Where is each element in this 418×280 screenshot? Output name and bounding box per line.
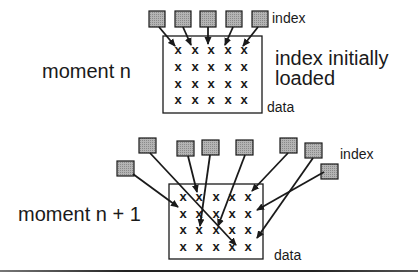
index-box bbox=[280, 138, 297, 153]
bottom-rule bbox=[0, 270, 418, 272]
svg-text:x: x bbox=[212, 206, 220, 221]
svg-text:x: x bbox=[244, 189, 252, 204]
bottom-index-boxes bbox=[117, 138, 338, 179]
bottom-moment-label: moment n + 1 bbox=[18, 204, 141, 224]
svg-text:x: x bbox=[228, 222, 236, 237]
bottom-data-label: data bbox=[274, 248, 301, 262]
svg-text:x: x bbox=[228, 206, 236, 221]
svg-text:x: x bbox=[244, 222, 252, 237]
svg-text:x: x bbox=[207, 92, 215, 107]
svg-text:x: x bbox=[174, 92, 182, 107]
svg-text:x: x bbox=[212, 239, 220, 254]
index-box bbox=[149, 11, 165, 27]
top-note-line1: index initially bbox=[275, 48, 388, 68]
top-diagram: xxxxx xxxxx xxxxx xxxxx bbox=[149, 11, 268, 113]
svg-text:x: x bbox=[224, 92, 232, 107]
top-index-boxes bbox=[149, 11, 268, 27]
svg-text:x: x bbox=[191, 42, 199, 57]
svg-text:x: x bbox=[240, 76, 248, 91]
index-box bbox=[236, 140, 253, 155]
svg-text:x: x bbox=[191, 76, 199, 91]
top-moment-label: moment n bbox=[42, 61, 131, 81]
bottom-index-label: index bbox=[340, 147, 373, 161]
index-box bbox=[226, 11, 242, 27]
svg-text:x: x bbox=[244, 206, 252, 221]
index-box bbox=[117, 161, 134, 176]
svg-text:x: x bbox=[179, 239, 187, 254]
top-index-label: index bbox=[272, 11, 305, 25]
svg-text:x: x bbox=[191, 59, 199, 74]
svg-text:x: x bbox=[174, 76, 182, 91]
index-box bbox=[305, 143, 322, 158]
top-note-line2: loaded bbox=[275, 68, 335, 88]
svg-text:x: x bbox=[207, 59, 215, 74]
diagram-canvas: xxxxx xxxxx xxxxx xxxxx xxxxx xxxxx xxxx… bbox=[0, 0, 418, 280]
svg-text:x: x bbox=[224, 76, 232, 91]
index-box bbox=[177, 141, 194, 156]
svg-text:x: x bbox=[191, 92, 199, 107]
svg-text:x: x bbox=[224, 42, 232, 57]
svg-text:x: x bbox=[207, 76, 215, 91]
index-box bbox=[200, 11, 216, 27]
svg-text:x: x bbox=[244, 239, 252, 254]
top-data-label: data bbox=[267, 100, 294, 114]
svg-text:x: x bbox=[174, 59, 182, 74]
index-box bbox=[139, 138, 156, 153]
svg-text:x: x bbox=[212, 189, 220, 204]
bottom-diagram: xxxxx xxxxx xxxxx xxxxx bbox=[117, 138, 338, 259]
svg-text:x: x bbox=[179, 206, 187, 221]
index-box bbox=[202, 140, 219, 155]
svg-text:x: x bbox=[179, 222, 187, 237]
svg-text:x: x bbox=[240, 42, 248, 57]
svg-text:x: x bbox=[195, 239, 203, 254]
svg-text:x: x bbox=[240, 59, 248, 74]
svg-text:x: x bbox=[207, 42, 215, 57]
svg-text:x: x bbox=[224, 59, 232, 74]
svg-text:x: x bbox=[240, 92, 248, 107]
index-box bbox=[252, 11, 268, 27]
index-box bbox=[175, 11, 191, 27]
svg-text:x: x bbox=[174, 42, 182, 57]
